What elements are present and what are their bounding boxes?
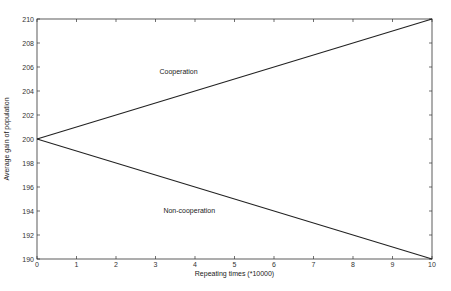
y-tick-label: 192 [22, 232, 34, 239]
y-tick-label: 210 [22, 16, 34, 23]
x-tick-label: 4 [193, 261, 197, 268]
x-tick-label: 5 [233, 261, 237, 268]
x-axis-label: Repeating times (*10000) [195, 270, 274, 278]
y-tick-label: 200 [22, 136, 34, 143]
annotation-cooperation: Cooperation [159, 68, 197, 76]
x-tick-label: 8 [351, 261, 355, 268]
x-tick-label: 10 [428, 261, 436, 268]
series-line-non-cooperation [37, 139, 432, 259]
x-tick-label: 1 [75, 261, 79, 268]
x-tick-label: 3 [154, 261, 158, 268]
x-tick-label: 6 [272, 261, 276, 268]
x-tick-label: 2 [114, 261, 118, 268]
series-line-cooperation [37, 19, 432, 139]
x-tick-label: 0 [35, 261, 39, 268]
plot-axes: 0123456789101901921941961982002022042062… [22, 16, 436, 269]
y-tick-label: 204 [22, 88, 34, 95]
plot-series [37, 19, 432, 259]
y-tick-label: 198 [22, 160, 34, 167]
y-tick-label: 190 [22, 256, 34, 263]
y-axis-label: Average gain of population [3, 97, 11, 180]
plot-frame [37, 19, 432, 259]
plot-annotations: CooperationNon-cooperation [159, 68, 215, 215]
y-tick-label: 208 [22, 40, 34, 47]
line-chart: 0123456789101901921941961982002022042062… [0, 0, 451, 291]
x-tick-label: 7 [312, 261, 316, 268]
y-tick-label: 206 [22, 64, 34, 71]
y-tick-label: 196 [22, 184, 34, 191]
y-tick-label: 202 [22, 112, 34, 119]
y-tick-label: 194 [22, 208, 34, 215]
annotation-non-cooperation: Non-cooperation [163, 207, 215, 215]
x-tick-label: 9 [391, 261, 395, 268]
